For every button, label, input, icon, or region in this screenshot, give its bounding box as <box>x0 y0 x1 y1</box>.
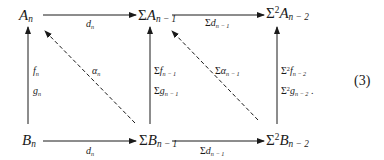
label-sigma2-g-n-minus-2: Σ2gn − 2 . <box>281 86 313 97</box>
label-sigma-alpha-n-minus-1: Σαn − 1 <box>215 66 240 77</box>
diagram-arrows <box>0 0 384 160</box>
node-sigma-b-n-minus-1: ΣBn − 1 <box>139 133 177 150</box>
label-sigma2-f-n-minus-2: Σ2fn − 2 <box>281 66 306 77</box>
label-sigma-d-bottom: Σdn − 1 <box>200 146 224 157</box>
equation-number: (3) <box>354 73 370 89</box>
node-sigma-a-n-minus-1: ΣAn − 1 <box>138 8 176 25</box>
label-sigma-d-top: Σdn − 1 <box>205 18 229 29</box>
label-g-n: gn <box>33 86 41 97</box>
label-sigma-g-n-minus-1: Σgn − 1 <box>154 86 178 97</box>
node-sigma2-a-n-minus-2: Σ2An − 2 <box>266 6 309 23</box>
arrow-diagonal-left <box>45 31 135 123</box>
label-d-n-top: dn <box>86 19 94 30</box>
label-alpha-n: αn <box>92 66 100 77</box>
node-sigma2-b-n-minus-2: Σ2Bn − 2 <box>266 133 309 150</box>
node-a-n: An <box>19 8 33 25</box>
label-f-n: fn <box>33 66 39 77</box>
label-d-n-bottom: dn <box>86 146 94 157</box>
node-b-n: Bn <box>22 133 36 150</box>
label-sigma-f-n-minus-1: Σfn − 1 <box>154 66 176 77</box>
